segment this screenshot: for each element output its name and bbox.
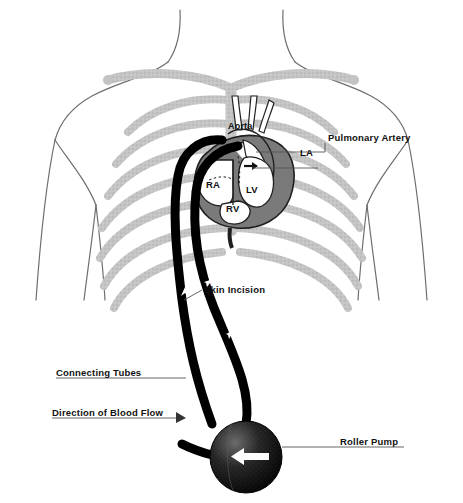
label-left-atrium: LA [300,147,313,158]
label-right-ventricle: RV [226,203,239,214]
label-aorta: Aorta [228,121,253,131]
leader-lines-layer [0,0,463,503]
label-skin-incision: Skin Incision [204,284,265,295]
diagram-canvas: Aorta Pulmonary Artery LA RA LV RV Skin … [0,0,463,503]
label-direction-of-blood-flow: Direction of Blood Flow [52,407,163,418]
label-connecting-tubes: Connecting Tubes [56,367,141,378]
label-right-atrium: RA [206,179,220,190]
leader-arrowhead [176,412,186,423]
label-roller-pump: Roller Pump [340,436,398,447]
leader-skin-incision [184,290,202,300]
label-left-ventricle: LV [246,184,258,195]
label-pulmonary-artery: Pulmonary Artery [328,132,411,143]
